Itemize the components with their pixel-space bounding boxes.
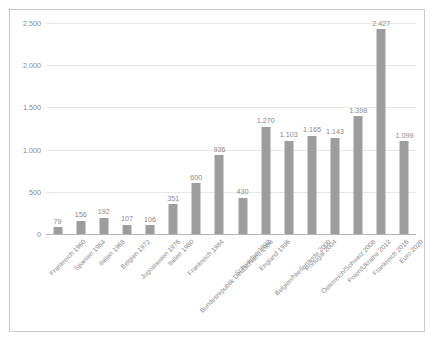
bar[interactable]: [331, 138, 340, 234]
y-axis-tick-label: 0: [37, 230, 41, 239]
bar-slot: 936: [208, 23, 231, 234]
bar[interactable]: [215, 155, 224, 234]
bar-slot: 1.270: [254, 23, 277, 234]
bar-value-label: 936: [213, 145, 225, 154]
bar-slot: 1.398: [347, 23, 370, 234]
bar-value-label: 79: [54, 217, 62, 226]
y-axis-tick-label: 2.500: [23, 19, 41, 28]
bar-value-label: 430: [237, 187, 249, 196]
x-axis-line: [46, 234, 416, 235]
x-axis-category-labels: Frankreich 1960Spanien 1964Italien 1968B…: [46, 236, 416, 332]
bar-value-label: 192: [98, 207, 110, 216]
bar[interactable]: [76, 221, 85, 234]
bar-value-label: 351: [167, 194, 179, 203]
bar-series: 791561921071063516009364301.2701.1031.16…: [46, 23, 416, 234]
bar-slot: 1.165: [300, 23, 323, 234]
bar-slot: 106: [139, 23, 162, 234]
bar[interactable]: [307, 136, 316, 234]
bar[interactable]: [53, 227, 62, 234]
bar-slot: 600: [185, 23, 208, 234]
bar-value-label: 1.099: [395, 131, 413, 140]
bar-value-label: 1.398: [349, 106, 367, 115]
bar-slot: 192: [92, 23, 115, 234]
bar-value-label: 1.270: [257, 116, 275, 125]
y-axis-tick-label: 1.500: [23, 103, 41, 112]
bar-slot: 2.427: [370, 23, 393, 234]
bar[interactable]: [169, 204, 178, 234]
bar-slot: 1.103: [277, 23, 300, 234]
bar-slot: 156: [69, 23, 92, 234]
bar-slot: 430: [231, 23, 254, 234]
bar-value-label: 107: [121, 214, 133, 223]
bar[interactable]: [122, 225, 131, 234]
y-axis-tick-label: 500: [29, 187, 41, 196]
bar[interactable]: [238, 198, 247, 234]
bar[interactable]: [354, 116, 363, 234]
bar-slot: 1.143: [324, 23, 347, 234]
chart-frame: 05001.0001.5002.0002.500 791561921071063…: [9, 9, 425, 332]
bar-value-label: 600: [190, 173, 202, 182]
bar[interactable]: [146, 225, 155, 234]
bar-slot: 1.099: [393, 23, 416, 234]
y-axis-tick-label: 1.000: [23, 145, 41, 154]
bar-value-label: 156: [75, 210, 87, 219]
bar-slot: 79: [46, 23, 69, 234]
bar[interactable]: [377, 29, 386, 234]
bar[interactable]: [400, 141, 409, 234]
bar[interactable]: [192, 183, 201, 234]
bar-slot: 351: [162, 23, 185, 234]
bar[interactable]: [284, 141, 293, 234]
bar[interactable]: [261, 127, 270, 234]
bar-value-label: 1.103: [280, 130, 298, 139]
y-axis-tick-label: 2.000: [23, 61, 41, 70]
bar[interactable]: [99, 218, 108, 234]
bar-value-label: 1.165: [303, 125, 321, 134]
bar-value-label: 106: [144, 215, 156, 224]
bar-slot: 107: [115, 23, 138, 234]
bar-value-label: 2.427: [372, 19, 390, 28]
plot-area: 05001.0001.5002.0002.500 791561921071063…: [46, 23, 416, 234]
bar-value-label: 1.143: [326, 127, 344, 136]
